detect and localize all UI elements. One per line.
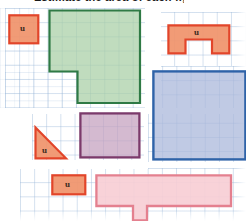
orange-u-shape[interactable] <box>167 24 231 55</box>
blue-square-rect <box>153 71 245 159</box>
unit-triangle-purple-svg <box>34 126 68 160</box>
unit-square-green[interactable] <box>8 14 40 45</box>
purple-rectangle[interactable] <box>79 112 142 160</box>
blue-square[interactable] <box>152 70 246 161</box>
green-shape-path <box>50 11 141 104</box>
unit-triangle-purple[interactable] <box>34 126 68 160</box>
purple-rectangle-rect <box>80 113 139 157</box>
gutter-midband <box>0 162 246 168</box>
unit-square-green-rect <box>9 15 38 43</box>
unit-rectangle-pink-rect <box>52 175 85 194</box>
orange-u-shape-svg <box>167 24 231 55</box>
unit-triangle-path <box>36 128 67 159</box>
unit-rectangle-pink[interactable] <box>51 174 87 196</box>
purple-rectangle-svg <box>79 112 142 160</box>
page-title: Estimate the area of each figure. <box>34 0 184 3</box>
green-notched-square[interactable] <box>48 9 142 105</box>
worksheet-page: Estimate the area of each figure. u u <box>0 0 246 221</box>
blue-square-svg <box>152 70 246 161</box>
pink-tab-path <box>96 175 231 220</box>
green-notched-square-svg <box>48 9 142 105</box>
pink-tab-figure-svg <box>95 174 233 221</box>
pink-tab-figure[interactable] <box>95 174 233 221</box>
unit-rectangle-pink-svg <box>51 174 87 196</box>
orange-u-path <box>168 25 229 53</box>
unit-square-green-svg <box>8 14 40 45</box>
